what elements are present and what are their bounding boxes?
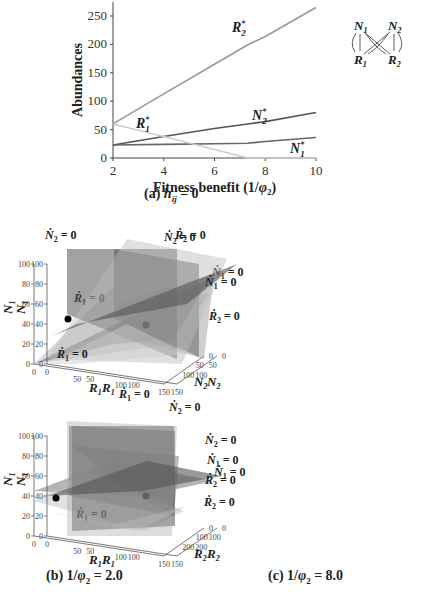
nullcline-label: Ṙ1 = 0 xyxy=(56,347,88,363)
svg-text:100: 100 xyxy=(128,553,140,562)
surface-plot-top-right: 020406080100050100150050100N1R1N2Ṅ2 = 0Ṙ… xyxy=(13,228,237,397)
svg-text:40: 40 xyxy=(35,492,43,501)
svg-text:100: 100 xyxy=(18,432,30,441)
caption-suffix: = 2.0 xyxy=(90,568,122,583)
svg-text:20: 20 xyxy=(35,340,43,349)
panel-c-caption: (c) 1/φ2 = 8.0 xyxy=(268,568,343,586)
svg-text:60: 60 xyxy=(35,472,43,481)
svg-text:0: 0 xyxy=(32,368,36,377)
svg-text:0: 0 xyxy=(26,532,30,541)
caption-phi: φ xyxy=(298,568,306,583)
caption-prefix: (c) 1/ xyxy=(268,568,298,583)
svg-text:50: 50 xyxy=(86,547,94,556)
svg-text:50: 50 xyxy=(73,547,81,556)
svg-text:40: 40 xyxy=(22,320,30,329)
svg-text:50: 50 xyxy=(209,361,217,370)
svg-text:0: 0 xyxy=(45,540,49,549)
svg-text:0: 0 xyxy=(39,532,43,541)
svg-text:100: 100 xyxy=(195,371,207,380)
svg-text:0: 0 xyxy=(26,360,30,369)
svg-text:200: 200 xyxy=(195,543,207,552)
svg-text:200: 200 xyxy=(182,543,194,552)
svg-text:100: 100 xyxy=(18,260,30,269)
nullcline-label: Ṅ2 = 0 xyxy=(204,433,237,449)
svg-text:100: 100 xyxy=(209,533,221,542)
svg-text:100: 100 xyxy=(196,533,208,542)
axis-label-x: R1 xyxy=(101,552,115,569)
nullcline-label: Ṙ2 = 0 xyxy=(174,228,206,244)
axis-label-x: R1 xyxy=(101,380,115,397)
svg-text:80: 80 xyxy=(35,452,43,461)
svg-text:100: 100 xyxy=(31,432,43,441)
svg-text:100: 100 xyxy=(31,260,43,269)
nullcline-label: Ṅ2 = 0 xyxy=(168,400,201,416)
svg-text:80: 80 xyxy=(35,280,43,289)
svg-text:0: 0 xyxy=(222,352,226,361)
nullcline-label: Ṙ2 = 0 xyxy=(204,473,236,489)
svg-text:100: 100 xyxy=(182,371,194,380)
svg-text:40: 40 xyxy=(35,320,43,329)
axis-label-z: R2 xyxy=(206,546,220,563)
surface-plot-bottom-right: 0204060801000501001500100200N1R1R2Ṙ1 = 0… xyxy=(13,387,239,569)
panel-b-caption: (b) 1/φ2 = 2.0 xyxy=(46,568,123,586)
nullcline-label: Ṙ2 = 0 xyxy=(208,309,240,325)
svg-text:0: 0 xyxy=(222,524,226,533)
svg-text:0: 0 xyxy=(45,368,49,377)
svg-text:0: 0 xyxy=(32,540,36,549)
svg-text:50: 50 xyxy=(73,375,81,384)
svg-text:150: 150 xyxy=(158,560,170,569)
caption-prefix: (b) 1/ xyxy=(46,568,78,583)
svg-text:150: 150 xyxy=(171,560,183,569)
svg-text:80: 80 xyxy=(22,280,30,289)
svg-text:80: 80 xyxy=(22,452,30,461)
nullcline-label: Ṙ1 = 0 xyxy=(118,387,150,403)
svg-text:20: 20 xyxy=(22,340,30,349)
caption-suffix: = 8.0 xyxy=(311,568,343,583)
nullcline-label: Ṅ1 = 0 xyxy=(206,453,239,469)
svg-text:100: 100 xyxy=(115,553,127,562)
axis-label-z: N2 xyxy=(206,374,220,391)
svg-text:60: 60 xyxy=(35,300,43,309)
svg-text:150: 150 xyxy=(158,388,170,397)
caption-phi: φ xyxy=(78,568,86,583)
svg-text:50: 50 xyxy=(86,375,94,384)
svg-text:0: 0 xyxy=(39,360,43,369)
svg-text:20: 20 xyxy=(35,512,43,521)
surface-plots: 020406080100050100150050100N1R1N2Ṅ2 = 0Ṙ… xyxy=(0,0,437,601)
svg-text:150: 150 xyxy=(171,388,183,397)
nullcline-label: Ṅ1 = 0 xyxy=(204,275,237,291)
nullcline-label: Ṙ2 = 0 xyxy=(203,495,235,511)
svg-text:40: 40 xyxy=(22,492,30,501)
equilibrium-point xyxy=(53,495,60,502)
svg-text:20: 20 xyxy=(22,512,30,521)
nullcline-label: Ṅ2 = 0 xyxy=(44,228,77,244)
equilibrium-point xyxy=(65,316,72,323)
